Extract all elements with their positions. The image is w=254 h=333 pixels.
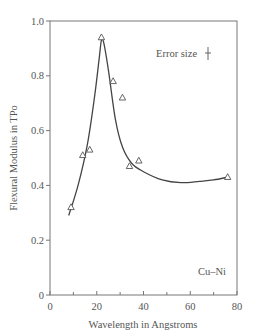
y-tick-label: 0.6 [31, 125, 44, 136]
material-label: Cu–Ni [198, 266, 226, 277]
plot-frame [50, 21, 237, 295]
data-point-triangle [119, 94, 125, 100]
chart: 02040608000.20.40.60.81.0 Wavelength in … [0, 0, 254, 333]
x-tick-label: 20 [92, 301, 103, 312]
data-point-triangle [136, 157, 142, 163]
y-tick-label: 0.4 [31, 180, 45, 191]
data-point-triangle [110, 78, 116, 84]
x-tick-label: 40 [138, 301, 149, 312]
y-tick-label: 0 [39, 290, 44, 301]
x-tick-label: 80 [232, 301, 243, 312]
data-point-triangle [98, 34, 104, 40]
x-tick-label: 0 [47, 301, 52, 312]
data-point-triangle [68, 204, 74, 210]
y-tick-label: 0.8 [31, 70, 44, 81]
fit-curve [69, 39, 228, 216]
y-axis-label: Flexural Modulus in TPo [8, 105, 19, 211]
data-points [68, 34, 231, 210]
x-tick-label: 60 [185, 301, 196, 312]
error-size-label: Error size [156, 48, 197, 59]
error-bar-icon [205, 47, 211, 60]
x-axis-label: Wavelength in Angstroms [89, 319, 198, 330]
y-tick-label: 1.0 [31, 16, 44, 27]
data-point-triangle [224, 174, 230, 180]
y-tick-label: 0.2 [31, 235, 44, 246]
